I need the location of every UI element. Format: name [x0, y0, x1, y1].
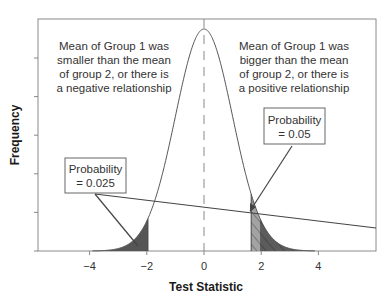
- x-axis-ticks: −4−2024: [83, 251, 321, 272]
- right-tail-two-sided-region: [260, 218, 315, 251]
- positive-note-line: bigger than the mean: [240, 54, 349, 66]
- negative-note: Mean of Group 1 was smaller than the mea…: [56, 40, 171, 94]
- chart: −4−2024 Probability = 0.025 Probability …: [0, 0, 392, 302]
- negative-note-line: of group 2, or there is: [59, 68, 169, 80]
- x-axis-title: Test Statistic: [169, 280, 243, 294]
- left-tail-region: [92, 218, 147, 251]
- positive-note-line: Mean of Group 1 was: [239, 40, 349, 52]
- negative-note-line: smaller than the mean: [57, 54, 171, 66]
- x-tick-label: −4: [83, 260, 96, 272]
- pointer-line-left-tail: [95, 194, 138, 246]
- plot-area: −4−2024 Probability = 0.025 Probability …: [0, 0, 392, 302]
- prob-box-right-line1: Probability: [268, 114, 322, 126]
- pointer-line-right-tail: [95, 194, 376, 228]
- x-tick-label: −2: [141, 260, 154, 272]
- positive-note-line: a positive relationship: [239, 82, 350, 94]
- pointer-line-one-sided: [250, 146, 292, 211]
- prob-box-right-line2: = 0.05: [278, 128, 310, 140]
- prob-box-left-line2: = 0.025: [76, 177, 115, 189]
- x-tick-label: 2: [258, 260, 264, 272]
- x-tick-label: 0: [201, 260, 207, 272]
- negative-note-line: Mean of Group 1 was: [59, 40, 169, 52]
- positive-note: Mean of Group 1 was bigger than the mean…: [239, 40, 350, 94]
- y-axis-title: Frequency: [8, 104, 22, 165]
- prob-box-left-line1: Probability: [69, 163, 123, 175]
- positive-note-line: of group 2, or there is: [239, 68, 349, 80]
- y-axis-ticks: [34, 58, 38, 251]
- x-tick-label: 4: [315, 260, 321, 272]
- negative-note-line: a negative relationship: [56, 82, 171, 94]
